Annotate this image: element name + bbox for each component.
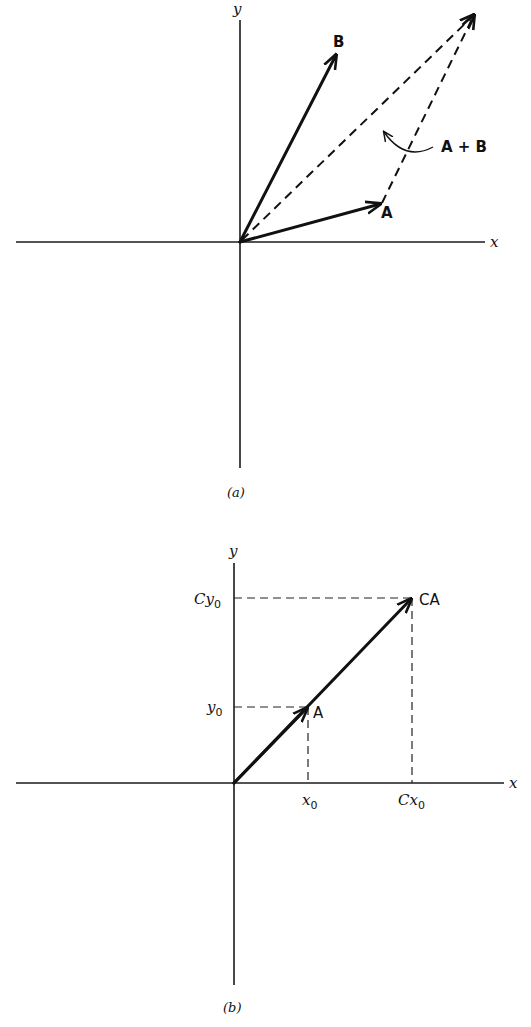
vector-b [240,55,336,242]
y-axis-label-b: y [228,542,238,560]
dashed-b-translate [382,15,474,203]
x-axis-label-a: x [490,233,499,251]
vector-ca-label: CA [419,591,440,609]
tick-label-cx0: Cx0 [398,791,425,812]
vector-a-label-a: A [381,204,393,222]
tick-label-y0: y0 [206,698,222,719]
x-axis-label-b: x [509,774,518,792]
vector-a-b [234,708,307,783]
caption-b: (b) [223,1000,241,1015]
vector-a [240,204,380,242]
figure-a: x y A B A + B (a) [16,0,499,500]
sum-label: A + B [441,138,487,156]
tick-label-x0: x0 [302,791,317,812]
tick-label-cy0: Cy0 [194,590,221,611]
caption-a: (a) [227,485,245,500]
vector-diagrams: x y A B A + B (a) x y A CA Cy0 [0,0,531,1027]
figure-b: x y A CA Cy0 y0 x0 Cx0 (b) [16,542,518,1015]
vector-a-label-b: A [313,704,324,722]
y-axis-label-a: y [232,0,242,18]
dashed-sum-vector [242,15,474,240]
vector-b-label-a: B [333,33,344,51]
